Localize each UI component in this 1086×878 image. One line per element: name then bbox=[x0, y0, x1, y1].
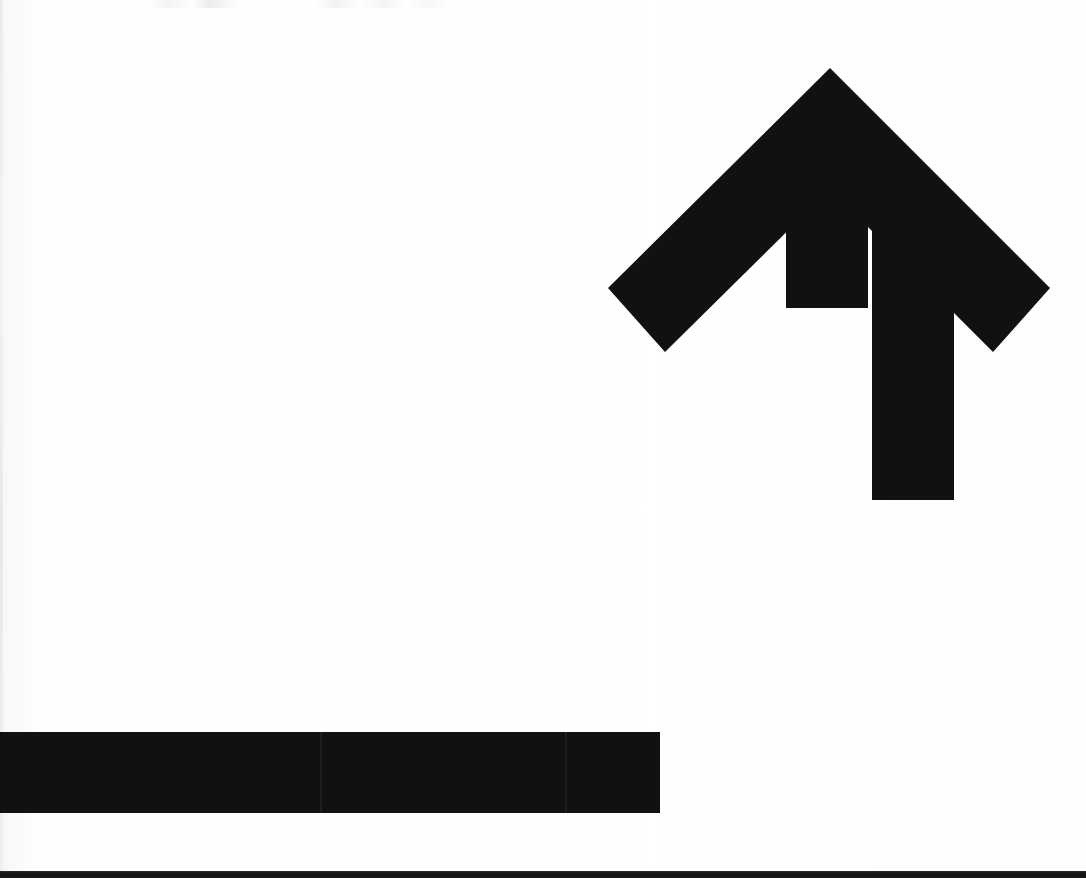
curved-up-arrow-graphic bbox=[0, 0, 1086, 878]
bottom-scan-edge-band bbox=[0, 871, 1086, 878]
arrow-shaft-neck bbox=[786, 188, 868, 308]
scan-canvas bbox=[0, 0, 1086, 878]
arrow-ink-group bbox=[0, 68, 1050, 813]
arrow-tail-bar bbox=[0, 732, 660, 813]
